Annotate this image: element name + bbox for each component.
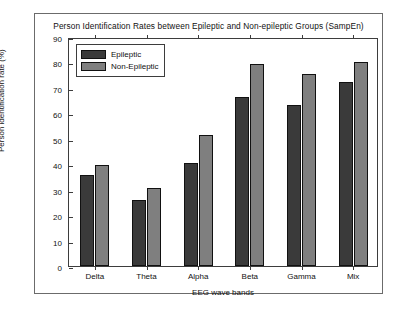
x-tick [250, 266, 251, 270]
y-tick-label: 40 [53, 162, 62, 171]
x-tick [147, 266, 148, 270]
y-tick [69, 192, 73, 193]
bar-non-epileptic [354, 62, 368, 266]
y-tick-label: 80 [53, 60, 62, 69]
bar-epileptic [132, 200, 146, 266]
x-tick-label: Beta [242, 272, 258, 281]
x-axis-title: EEG wave bands [68, 288, 378, 297]
x-tick-top [353, 35, 354, 39]
bar-group [287, 39, 316, 266]
x-tick-label: Alpha [188, 272, 208, 281]
y-tick [69, 217, 73, 218]
y-tick-label: 70 [53, 85, 62, 94]
y-tick-label: 60 [53, 111, 62, 120]
bar-non-epileptic [302, 74, 316, 266]
x-tick-top [250, 35, 251, 39]
x-tick-label: Mix [347, 272, 359, 281]
bar-non-epileptic [147, 188, 161, 266]
y-tick [69, 64, 73, 65]
y-tick [69, 141, 73, 142]
y-tick [69, 243, 73, 244]
bar-non-epileptic [95, 165, 109, 266]
y-tick [69, 268, 73, 269]
x-tick-top [302, 35, 303, 39]
bar-group [235, 39, 264, 266]
bar-non-epileptic [199, 135, 213, 266]
bar-group [184, 39, 213, 266]
bar-epileptic [80, 175, 94, 266]
y-tick-label: 0 [58, 264, 62, 273]
x-tick [353, 266, 354, 270]
x-tick-label: Gamma [287, 272, 315, 281]
x-tick-top [95, 35, 96, 39]
x-tick-top [198, 35, 199, 39]
y-tick [69, 90, 73, 91]
y-tick [69, 166, 73, 167]
y-tick-label: 90 [53, 35, 62, 44]
y-tick [69, 39, 73, 40]
legend-swatch-non-epileptic [81, 62, 106, 71]
legend-item-non-epileptic: Non-Epileptic [81, 61, 159, 72]
bar-epileptic [287, 105, 301, 266]
x-tick [95, 266, 96, 270]
x-tick [302, 266, 303, 270]
x-tick-label: Delta [85, 272, 104, 281]
bar-non-epileptic [250, 64, 264, 266]
x-tick [198, 266, 199, 270]
bar-epileptic [339, 82, 353, 266]
y-tick-label: 20 [53, 213, 62, 222]
legend-label-epileptic: Epileptic [111, 50, 141, 59]
y-axis-title: Person identification rate (%) [0, 49, 6, 152]
legend-item-epileptic: Epileptic [81, 49, 159, 60]
y-tick-label: 10 [53, 238, 62, 247]
chart-legend: Epileptic Non-Epileptic [76, 44, 165, 77]
bar-epileptic [184, 163, 198, 266]
bar-group [339, 39, 368, 266]
y-tick-label: 50 [53, 136, 62, 145]
chart-title: Person Identification Rates between Epil… [34, 21, 383, 31]
y-tick [69, 115, 73, 116]
x-tick-label: Theta [136, 272, 156, 281]
legend-label-non-epileptic: Non-Epileptic [111, 62, 159, 71]
y-tick-label: 30 [53, 187, 62, 196]
x-tick-top [147, 35, 148, 39]
bar-epileptic [235, 97, 249, 266]
legend-swatch-epileptic [81, 50, 106, 59]
